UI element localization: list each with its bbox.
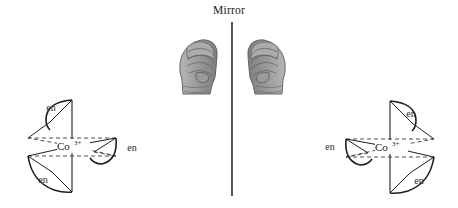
right-en-label-left: en	[325, 141, 334, 152]
right-metal-label: Co	[375, 141, 388, 153]
left-metal-label: Co	[57, 140, 70, 152]
left-hand	[180, 40, 217, 94]
diagram-svg: Co 3+ en en en Co 3+ en en en	[0, 0, 458, 208]
left-complex: Co 3+ en en en	[28, 100, 137, 192]
left-charge-label: 3+	[74, 139, 82, 147]
right-hand	[248, 40, 285, 94]
left-en-label-bottom: en	[38, 174, 47, 185]
right-charge-label: 3+	[392, 140, 400, 148]
right-en-label-top: en	[406, 108, 415, 119]
left-en-label-top: en	[46, 102, 55, 113]
left-en-label-right: en	[127, 142, 136, 153]
right-en-label-bottom: en	[414, 175, 423, 186]
right-complex: Co 3+ en en en	[325, 101, 434, 193]
figure-canvas: Mirror	[0, 0, 458, 208]
